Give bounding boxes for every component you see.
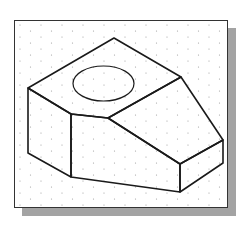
isometric-drawing xyxy=(0,0,245,226)
dot-grid xyxy=(15,21,226,206)
